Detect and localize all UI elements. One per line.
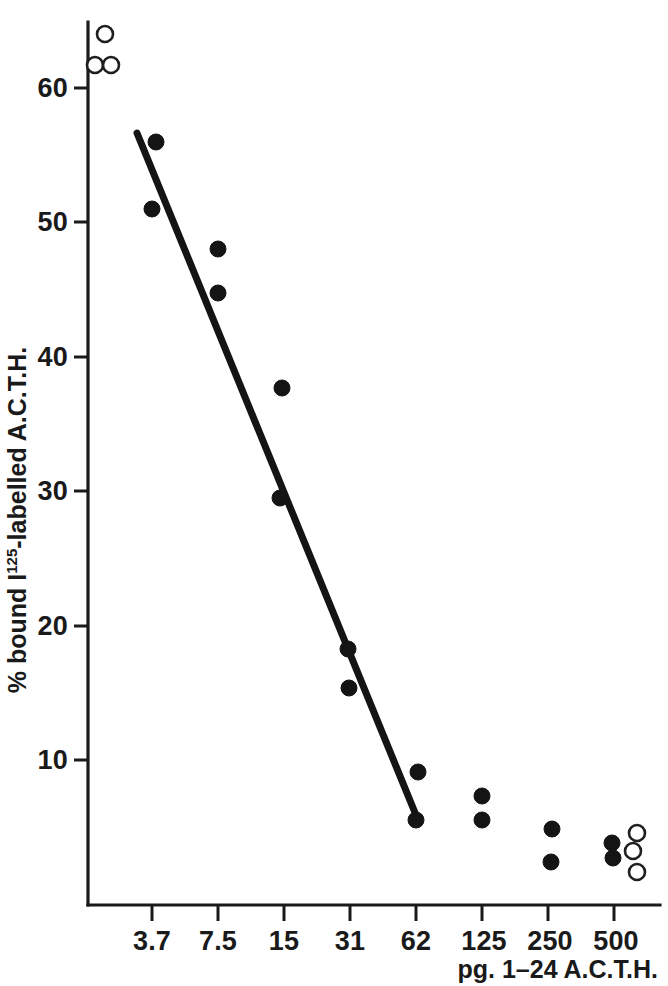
y-tick-label-40: 40 — [38, 342, 68, 372]
y-tick-label-60: 60 — [38, 73, 68, 103]
data-point — [210, 285, 226, 301]
control-point — [625, 843, 641, 859]
y-tick-label-10: 10 — [38, 745, 68, 775]
y-axis-title-prefix: % bound I — [3, 574, 31, 693]
x-tick-label-31: 31 — [335, 926, 365, 956]
x-axis-title: pg. 1–24 A.C.T.H. — [457, 955, 658, 983]
x-tick-label-250: 250 — [527, 926, 573, 956]
data-point — [274, 380, 290, 396]
data-point — [144, 201, 160, 217]
data-point — [604, 835, 620, 851]
y-tick-label-20: 20 — [38, 611, 68, 641]
x-tick-label-125: 125 — [461, 926, 507, 956]
acth-standard-curve-chart: 60 50 40 30 20 10 3.7 7.5 15 31 62 125 2… — [0, 0, 668, 986]
control-point — [97, 26, 113, 42]
regression-line — [137, 133, 418, 820]
x-tick-label-500: 500 — [593, 926, 639, 956]
data-point — [148, 134, 164, 150]
data-point — [474, 788, 490, 804]
data-point — [340, 641, 356, 657]
data-points-filled — [144, 134, 621, 870]
data-point — [410, 764, 426, 780]
axes — [88, 22, 660, 905]
y-axis-title: % bound I125-labelled A.C.T.H. — [3, 347, 31, 693]
data-points-open — [87, 26, 645, 880]
data-point — [543, 854, 559, 870]
data-point — [408, 812, 424, 828]
svg-text:% bound I125-labelled A.C.T.H.: % bound I125-labelled A.C.T.H. — [3, 347, 31, 693]
data-point — [341, 680, 357, 696]
x-tick-label-15: 15 — [269, 926, 299, 956]
data-point — [605, 850, 621, 866]
control-point — [629, 825, 645, 841]
data-point — [474, 812, 490, 828]
y-axis-ticks: 60 50 40 30 20 10 — [38, 73, 88, 775]
x-axis-ticks: 3.7 7.5 15 31 62 125 250 500 — [133, 905, 639, 956]
y-tick-label-30: 30 — [38, 476, 68, 506]
x-tick-label-62: 62 — [401, 926, 431, 956]
x-tick-label-7-5: 7.5 — [199, 926, 237, 956]
figure-container: 60 50 40 30 20 10 3.7 7.5 15 31 62 125 2… — [0, 0, 668, 986]
y-axis-title-suffix: -labelled A.C.T.H. — [3, 347, 31, 549]
data-point — [210, 241, 226, 257]
data-point — [544, 821, 560, 837]
y-tick-label-50: 50 — [38, 207, 68, 237]
y-axis-title-superscript: 125 — [3, 549, 20, 574]
control-point — [103, 57, 119, 73]
control-point — [87, 57, 103, 73]
control-point — [629, 864, 645, 880]
x-tick-label-3-7: 3.7 — [133, 926, 171, 956]
data-point — [272, 490, 288, 506]
